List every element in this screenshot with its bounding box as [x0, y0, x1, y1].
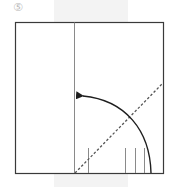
fold-diagram: [0, 0, 174, 187]
paper-square: [16, 23, 164, 174]
